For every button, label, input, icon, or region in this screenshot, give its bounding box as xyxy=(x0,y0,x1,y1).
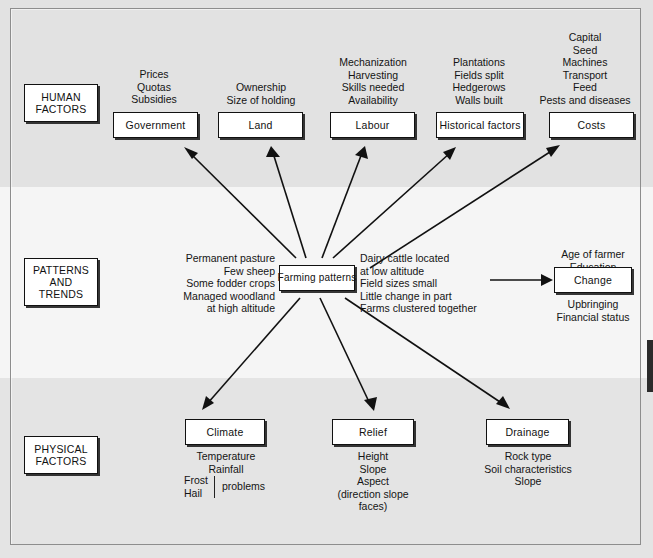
arrow-to-government xyxy=(184,147,296,258)
brace-divider xyxy=(214,476,215,498)
annotation-line: Financial status xyxy=(538,311,648,324)
arrow-to-historical-factors xyxy=(333,147,456,258)
annotation-climate-problems: Frost Hail problems xyxy=(184,474,265,499)
band-label-line: FACTORS xyxy=(36,103,87,115)
annotation-line: Walls built xyxy=(433,94,525,107)
annotation-line: faces) xyxy=(318,500,428,513)
node-costs[interactable]: Costs xyxy=(549,112,634,138)
annotation-government: Prices Quotas Subsidies xyxy=(113,68,195,106)
band-label-patterns-and-trends: PATTERNS AND TRENDS xyxy=(24,258,98,306)
annotation-change-below: Upbringing Financial status xyxy=(538,298,648,323)
annotation-line: Fields split xyxy=(433,69,525,82)
annotation-line: at low altitude xyxy=(360,265,500,278)
centre-right-annotation: Dairy cattle located at low altitude Fie… xyxy=(360,252,500,315)
annotation-line: Dairy cattle located xyxy=(360,252,500,265)
node-labour[interactable]: Labour xyxy=(330,112,415,138)
annotation-line: Some fodder crops xyxy=(160,277,275,290)
annotation-line: Temperature xyxy=(180,450,272,463)
annotation-relief: Height Slope Aspect (direction slope fac… xyxy=(318,450,428,513)
band-label-line: HUMAN xyxy=(41,91,81,103)
node-relief[interactable]: Relief xyxy=(332,419,414,445)
band-label-physical-factors: PHYSICAL FACTORS xyxy=(24,436,98,474)
annotation-line: Slope xyxy=(318,463,428,476)
annotation-line: Skills needed xyxy=(325,81,421,94)
arrow-to-land xyxy=(266,146,306,258)
annotation-line: Transport xyxy=(530,69,640,82)
annotation-line: Capital xyxy=(530,31,640,44)
annotation-line: Ownership xyxy=(213,81,309,94)
annotation-drainage: Rock type Soil characteristics Slope xyxy=(472,450,584,488)
annotation-line: Little change in part xyxy=(360,290,500,303)
band-label-line: TRENDS xyxy=(39,288,83,300)
annotation-line: Managed woodland xyxy=(160,290,275,303)
annotation-line: Prices xyxy=(113,68,195,81)
annotation-line: Quotas xyxy=(113,81,195,94)
annotation-line: Machines xyxy=(530,56,640,69)
annotation-line: Harvesting xyxy=(325,69,421,82)
annotation-labour: Mechanization Harvesting Skills needed A… xyxy=(325,56,421,106)
annotation-line: problems xyxy=(222,480,265,493)
annotation-line: Feed xyxy=(530,81,640,94)
band-label-line: PHYSICAL xyxy=(34,443,88,455)
diagram-canvas: HUMAN FACTORS PATTERNS AND TRENDS PHYSIC… xyxy=(0,0,653,558)
annotation-line: Upbringing xyxy=(538,298,648,311)
annotation-line: Plantations xyxy=(433,56,525,69)
node-change[interactable]: Change xyxy=(554,267,632,293)
annotation-line: Farms clustered together xyxy=(360,302,500,315)
annotation-line: Aspect xyxy=(318,475,428,488)
annotation-line: Subsidies xyxy=(113,93,195,106)
annotation-line: Hail xyxy=(184,487,208,500)
band-label-line: PATTERNS xyxy=(33,264,89,276)
annotation-line: Pests and diseases xyxy=(530,94,640,107)
node-farming-patterns[interactable]: Farming patterns xyxy=(279,265,355,291)
annotation-line: Mechanization xyxy=(325,56,421,69)
band-label-human-factors: HUMAN FACTORS xyxy=(24,84,98,122)
band-label-line: FACTORS xyxy=(36,455,87,467)
annotation-line: Few sheep xyxy=(160,265,275,278)
node-historical-factors[interactable]: Historical factors xyxy=(436,112,524,138)
annotation-line: Field sizes small xyxy=(360,277,500,290)
annotation-line: Rock type xyxy=(472,450,584,463)
annotation-land: Ownership Size of holding xyxy=(213,81,309,106)
frost-hail-stack: Frost Hail xyxy=(184,474,208,499)
node-climate[interactable]: Climate xyxy=(185,419,265,445)
annotation-line: Slope xyxy=(472,475,584,488)
annotation-line: at high altitude xyxy=(160,302,275,315)
node-land[interactable]: Land xyxy=(218,112,303,138)
annotation-line: Height xyxy=(318,450,428,463)
annotation-line: Frost xyxy=(184,474,208,487)
annotation-costs: Capital Seed Machines Transport Feed Pes… xyxy=(530,31,640,107)
arrow-to-labour xyxy=(322,146,368,258)
annotation-line: Soil characteristics xyxy=(472,463,584,476)
annotation-line: Availability xyxy=(325,94,421,107)
node-government[interactable]: Government xyxy=(113,112,198,138)
arrow-to-costs xyxy=(370,145,560,268)
centre-left-annotation: Permanent pasture Few sheep Some fodder … xyxy=(160,252,275,315)
band-label-line: AND xyxy=(50,276,73,288)
annotation-line: Hedgerows xyxy=(433,81,525,94)
annotation-line: Permanent pasture xyxy=(160,252,275,265)
annotation-historical-factors: Plantations Fields split Hedgerows Walls… xyxy=(433,56,525,106)
annotation-line: Size of holding xyxy=(213,94,309,107)
annotation-line: Age of farmer xyxy=(543,248,643,261)
annotation-line: Seed xyxy=(530,44,640,57)
annotation-climate: Temperature Rainfall xyxy=(180,450,272,475)
node-drainage[interactable]: Drainage xyxy=(486,419,569,445)
annotation-line: (direction slope xyxy=(318,488,428,501)
